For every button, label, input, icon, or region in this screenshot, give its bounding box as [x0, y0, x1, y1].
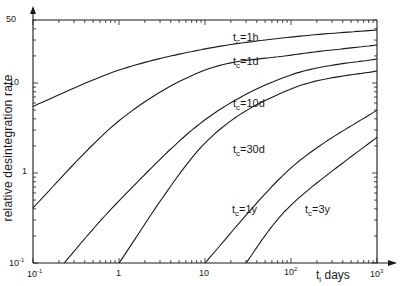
- x-tick-1000: 103: [370, 268, 383, 279]
- x-tick-1: 1: [116, 268, 121, 278]
- y-axis-label-text: relative desintegration rate: [1, 74, 15, 221]
- y-tick-10: 10: [9, 77, 19, 87]
- curve-tc-1h: [33, 30, 377, 106]
- curve-label-1h: tc=1h: [233, 31, 259, 46]
- x-axis-label: ti days: [316, 268, 350, 284]
- y-tick-0.1: 10-1: [9, 257, 24, 268]
- y-tick-50: 50: [6, 14, 16, 24]
- curve-tc-1y: [205, 110, 377, 263]
- x-tick-0.1: 10-1: [27, 268, 42, 279]
- curve-label-1d: tc=1d: [233, 55, 259, 70]
- axes: [30, 6, 397, 266]
- y-tick-1: 1: [22, 166, 27, 176]
- curve-label-3y: tc=3y: [305, 203, 330, 218]
- x-tick-10: 10: [199, 268, 209, 278]
- chart-plot-area: [0, 0, 407, 286]
- curves: [33, 30, 377, 263]
- curve-tc-1d: [33, 45, 377, 208]
- x-tick-100: 102: [284, 266, 297, 277]
- curve-label-30d: tc=30d: [233, 143, 265, 158]
- curve-tc-10d: [64, 59, 377, 263]
- curve-label-10d: tc=10d: [233, 97, 265, 112]
- curve-tc-3y: [246, 137, 377, 263]
- curve-label-1y: tc=1y: [232, 203, 257, 218]
